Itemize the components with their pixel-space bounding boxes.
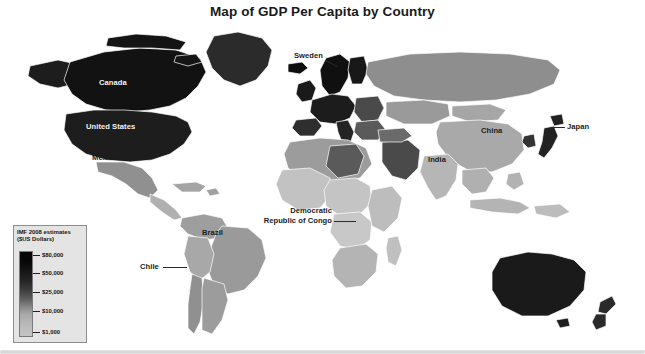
legend-tick-80000	[33, 255, 40, 256]
leader-line-drc	[334, 221, 356, 222]
map-label-drc: Democratic Republic of Congo	[246, 206, 332, 226]
legend-label-50000: $50,000	[42, 270, 63, 277]
legend-label-25000: $25,000	[42, 289, 63, 296]
world-map-svg	[0, 22, 645, 354]
map-label-brazil: Brazil	[202, 228, 223, 238]
map-label-sweden: Sweden	[294, 51, 323, 61]
country-antarctica-edge	[0, 350, 645, 354]
world-map: Canada United States Mexico Brazil Chile…	[0, 22, 645, 354]
legend-tick-10000	[33, 311, 40, 312]
map-label-japan: Japan	[567, 122, 589, 132]
map-legend: IMF 2008 estimates ($US Dollars) $80,000…	[13, 225, 87, 343]
legend-title: IMF 2008 estimates ($US Dollars)	[17, 229, 85, 244]
country-kazakhstan	[386, 100, 450, 124]
legend-label-10000: $10,000	[42, 308, 63, 315]
legend-label-80000: $80,000	[42, 252, 63, 259]
map-label-india: India	[428, 155, 446, 165]
leader-line-chile	[163, 267, 187, 268]
legend-title-line1: IMF 2008 estimates	[17, 229, 85, 236]
leader-line-japan	[552, 127, 565, 128]
legend-color-ramp	[19, 251, 33, 337]
legend-tick-25000	[33, 292, 40, 293]
legend-label-1000: $1,000	[42, 329, 60, 336]
gdp-map-page: Map of GDP Per Capita by Country	[0, 0, 645, 354]
map-label-china: China	[481, 126, 502, 136]
page-title: Map of GDP Per Capita by Country	[0, 4, 645, 19]
map-label-canada: Canada	[99, 78, 127, 88]
map-label-drc-line1: Democratic	[246, 206, 332, 216]
map-label-drc-line2: Republic of Congo	[246, 216, 332, 226]
legend-tick-50000	[33, 273, 40, 274]
map-label-mexico: Mexico	[92, 153, 118, 163]
map-label-united-states: United States	[86, 122, 135, 132]
legend-tick-1000	[33, 332, 40, 333]
legend-title-line2: ($US Dollars)	[17, 236, 85, 243]
map-label-chile: Chile	[140, 262, 159, 272]
